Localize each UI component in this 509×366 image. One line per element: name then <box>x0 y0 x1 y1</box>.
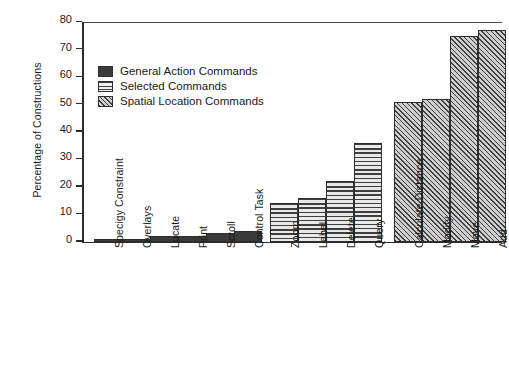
y-axis-tick-label: 0 <box>66 233 72 245</box>
x-tick-label-add: Add <box>497 229 509 248</box>
y-axis-tick-label: 70 <box>60 41 72 53</box>
y-axis-tick: 40 <box>76 130 82 131</box>
y-axis-line <box>82 22 84 243</box>
bar-move <box>450 36 478 242</box>
plot-top-spine <box>82 22 502 23</box>
legend-label: Selected Commands <box>120 80 227 92</box>
legend-swatch-spatial-icon <box>98 96 113 107</box>
legend-item-selected: Selected Commands <box>98 79 264 93</box>
x-tick-label-print: Print <box>197 226 209 248</box>
bar-add <box>478 30 506 241</box>
y-axis-tick: 20 <box>76 185 82 186</box>
y-axis-tick-label: 40 <box>60 123 72 135</box>
x-tick-label-delete: Delete <box>345 217 357 248</box>
legend-item-spatial: Spatial Location Commands <box>98 94 264 108</box>
y-axis-tick-label: 20 <box>60 178 72 190</box>
x-tick-label-modify: Modify <box>441 216 453 248</box>
x-tick-label-move: Move <box>469 222 481 248</box>
y-axis-tick-label: 80 <box>60 13 72 25</box>
x-tick-label-specigy-constraint: Specigy Constraint <box>113 158 125 248</box>
legend-item-general: General Action Commands <box>98 64 264 78</box>
legend-label: Spatial Location Commands <box>120 95 264 107</box>
legend-swatch-general-icon <box>98 66 113 77</box>
legend-swatch-selected-icon <box>98 81 113 92</box>
y-axis-tick-label: 10 <box>60 205 72 217</box>
y-axis-tick: 30 <box>76 158 82 159</box>
y-axis-tick: 80 <box>76 21 82 22</box>
x-tick-label-calculate-distance: Calculate Distance <box>413 159 425 248</box>
y-axis-tick-label: 50 <box>60 96 72 108</box>
x-tick-label-query: Query <box>373 219 385 248</box>
y-axis-tick: 0 <box>76 240 82 241</box>
y-axis-tick: 50 <box>76 103 82 104</box>
y-axis-tick: 60 <box>76 76 82 77</box>
x-tick-label-locate: Locate <box>169 216 181 248</box>
y-axis-tick: 70 <box>76 48 82 49</box>
y-axis-title: Percentage of Constructions <box>31 25 43 235</box>
x-tick-label-overlays: Overlays <box>141 206 153 248</box>
x-tick-label-control-task: Control Task <box>253 189 265 248</box>
x-tick-label-zoom: Zoom <box>289 221 301 248</box>
y-axis-tick-label: 60 <box>60 68 72 80</box>
x-tick-label-scroll: Scroll <box>225 221 237 248</box>
chart-legend: General Action CommandsSelected Commands… <box>98 64 264 109</box>
y-axis-tick: 10 <box>76 213 82 214</box>
y-axis-tick-label: 30 <box>60 150 72 162</box>
legend-label: General Action Commands <box>120 65 257 77</box>
x-tick-label-label: Label <box>317 222 329 248</box>
bar-chart-figure: Percentage of Constructions 010203040506… <box>0 0 509 366</box>
